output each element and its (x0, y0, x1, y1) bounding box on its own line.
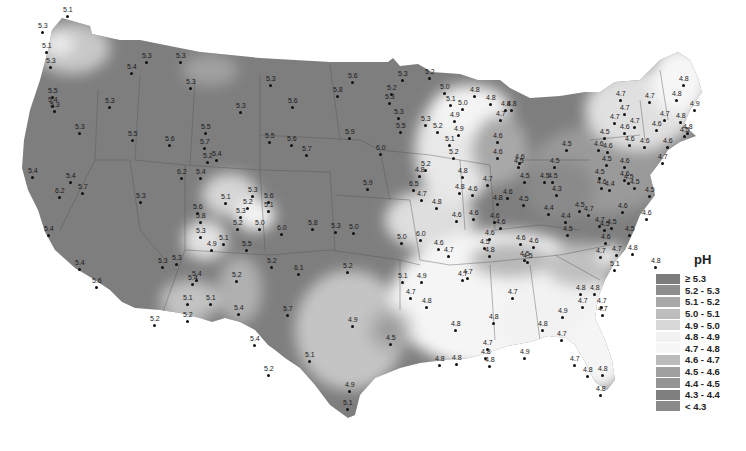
station-ph-label: 4.6 (493, 132, 503, 140)
station-dot (675, 99, 678, 102)
station-dot (351, 81, 354, 84)
station-dot (519, 243, 522, 246)
station-ph-label: 5.1 (445, 135, 455, 143)
station-dot (108, 106, 111, 109)
station-ph-label: 4.4 (544, 204, 554, 212)
legend-swatch (656, 297, 680, 307)
station-dot (346, 271, 349, 274)
station-ph-label: 4.6 (452, 211, 462, 219)
station-ph-label: 4.5 (514, 157, 524, 165)
station-dot (489, 103, 492, 106)
station-dot (604, 242, 607, 245)
station-ph-label: 5.3 (385, 93, 395, 101)
station-dot (175, 263, 178, 266)
station-dot (399, 131, 402, 134)
station-ph-label: 4.8 (676, 112, 686, 120)
station-ph-label: 4.5 (548, 172, 558, 180)
station-ph-label: 5.1 (343, 399, 353, 407)
legend-label: 4.9 - 5.0 (685, 320, 720, 331)
station-dot (420, 199, 423, 202)
station-dot (633, 126, 636, 129)
station-ph-label: 4.7 (417, 190, 427, 198)
station-ph-label: 5.3 (394, 108, 404, 116)
station-dot (663, 119, 666, 122)
station-ph-label: 6.2 (177, 168, 187, 176)
station-dot (573, 364, 576, 367)
station-ph-label: 5.2 (243, 198, 253, 206)
station-dot (246, 207, 249, 210)
station-ph-label: 6.0 (376, 144, 386, 152)
station-dot (400, 242, 403, 245)
station-ph-label: 4.6 (529, 237, 539, 245)
station-ph-label: 5.7 (283, 305, 293, 313)
station-ph-label: 5.6 (348, 72, 358, 80)
station-ph-label: 5.3 (136, 192, 146, 200)
legend-label: 4.6 - 4.7 (685, 354, 720, 365)
station-ph-label: 5.5 (48, 87, 58, 95)
station-dot (643, 146, 646, 149)
station-dot (648, 101, 651, 104)
station-ph-label: 5.1 (63, 6, 73, 14)
station-dot (210, 249, 213, 252)
station-ph-label: 4.6 (603, 142, 613, 150)
station-dot (648, 195, 651, 198)
station-ph-label: 4.7 (630, 117, 640, 125)
station-ph-label: 5.4 (44, 225, 54, 233)
legend-swatch (656, 320, 680, 330)
station-ph-label: 4.8 (493, 194, 503, 202)
station-ph-label: 5.3 (46, 57, 56, 65)
station-ph-label: 4.5 (595, 168, 605, 176)
station-dot (168, 144, 171, 147)
station-dot (199, 236, 202, 239)
station-dot (267, 374, 270, 377)
legend-label: 4.8 - 4.9 (685, 331, 720, 342)
station-ph-label: 4.6 (434, 239, 444, 247)
station-ph-label: 5.1 (610, 260, 620, 268)
station-dot (613, 269, 616, 272)
station-dot (523, 357, 526, 360)
station-ph-label: 4.8 (470, 86, 480, 94)
legend-label: 5.1 - 5.2 (685, 296, 720, 307)
legend-item: 4.3 - 4.4 (656, 389, 746, 401)
station-ph-label: 4.9 (417, 272, 427, 280)
station-dot (561, 316, 564, 319)
station-dot (631, 253, 634, 256)
station-ph-label: 5.3 (158, 257, 168, 265)
station-ph-label: 4.8 (485, 356, 495, 364)
station-dot (473, 95, 476, 98)
station-dot (268, 141, 271, 144)
station-ph-label: 5.6 (264, 192, 274, 200)
station-ph-label: 5.2 (150, 315, 160, 323)
station-ph-label: 5.3 (186, 78, 196, 86)
station-dot (496, 203, 499, 206)
station-dot (541, 329, 544, 332)
station-ph-label: 4.5 (680, 126, 690, 134)
legend-item: 5.2 - 5.3 (656, 285, 746, 297)
station-dot (191, 283, 194, 286)
station-dot (601, 314, 604, 317)
station-ph-label: 5.2 (183, 311, 193, 319)
station-ph-label: 5.2 (267, 257, 277, 265)
station-dot (437, 248, 440, 251)
station-dot (654, 266, 657, 269)
station-ph-label: 4.5 (602, 155, 612, 163)
station-ph-label: 4.7 (444, 246, 454, 254)
station-ph-label: 4.6 (468, 185, 478, 193)
station-dot (366, 188, 369, 191)
station-dot (47, 234, 50, 237)
station-ph-label: 6.1 (294, 264, 304, 272)
station-dot (49, 66, 52, 69)
station-ph-label: 4.5 (520, 250, 530, 258)
station-ph-label: 4.6 (490, 212, 500, 220)
station-ph-label: 4.8 (576, 284, 586, 292)
station-ph-label: 4.7 (596, 247, 606, 255)
station-dot (683, 135, 686, 138)
station-dot (600, 187, 603, 190)
station-dot (547, 213, 550, 216)
legend-label: 5.2 - 5.3 (685, 285, 720, 296)
station-ph-label: 5.6 (287, 135, 297, 143)
station-ph-label: 5.2 (387, 84, 397, 92)
station-ph-label: 4.8 (415, 166, 425, 174)
station-ph-label: 4.9 (345, 381, 355, 389)
station-dot (601, 374, 604, 377)
